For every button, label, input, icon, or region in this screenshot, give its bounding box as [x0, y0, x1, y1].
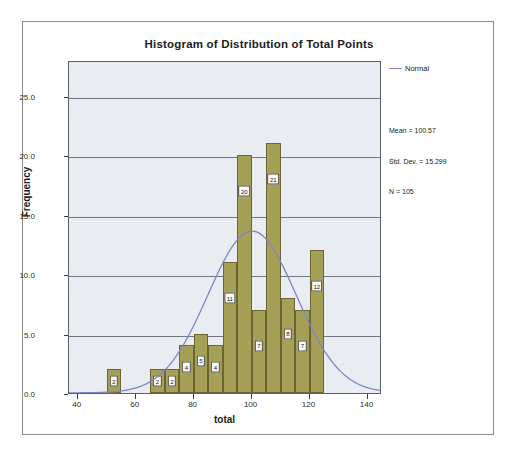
- chart-frame: Histogram of Distribution of Total Point…: [22, 21, 494, 435]
- x-axis-tick-mark: [77, 394, 78, 399]
- stat-mean: Mean = 100.57: [389, 126, 447, 136]
- y-axis-tick-mark: [64, 156, 68, 157]
- y-axis-tick-mark: [64, 335, 68, 336]
- stat-std-dev: Std. Dev. = 15.299: [389, 157, 447, 167]
- legend: Normal: [389, 64, 429, 73]
- legend-label-normal: Normal: [405, 64, 429, 73]
- y-axis-tick-mark: [64, 275, 68, 276]
- x-axis-tick-mark: [135, 394, 136, 399]
- statistics-annotation: Mean = 100.57 Std. Dev. = 15.299 N = 105: [389, 106, 447, 218]
- stat-n: N = 105: [389, 187, 447, 197]
- y-axis-tick-mark: [64, 97, 68, 98]
- y-axis-tick-label: 10.0: [19, 271, 35, 280]
- x-axis-tick-mark: [367, 394, 368, 399]
- y-axis-tick-label: 0.0: [24, 390, 35, 399]
- x-axis-tick-label: 40: [72, 400, 81, 409]
- plot-area: 22245411207218712: [68, 61, 381, 394]
- x-axis-tick-mark: [309, 394, 310, 399]
- x-axis-tick-label: 140: [360, 400, 373, 409]
- x-axis-tick-label: 120: [302, 400, 315, 409]
- x-axis-tick-mark: [251, 394, 252, 399]
- x-axis-label: total: [68, 414, 381, 425]
- legend-line-swatch: [389, 68, 402, 69]
- y-axis-tick-label: 5.0: [24, 330, 35, 339]
- y-axis-tick-mark: [64, 216, 68, 217]
- y-axis-tick-mark: [64, 394, 68, 395]
- x-axis-tick-label: 80: [188, 400, 197, 409]
- y-axis-label: Frequency: [21, 167, 32, 218]
- normal-curve: [69, 62, 380, 393]
- chart-title: Histogram of Distribution of Total Point…: [23, 38, 495, 50]
- y-axis-tick-label: 15.0: [19, 211, 35, 220]
- y-axis-tick-label: 25.0: [19, 92, 35, 101]
- x-axis-tick-mark: [193, 394, 194, 399]
- x-axis-tick-label: 100: [244, 400, 257, 409]
- x-axis-tick-label: 60: [130, 400, 139, 409]
- plot-inner: 22245411207218712: [69, 62, 380, 393]
- y-axis-tick-label: 20.0: [19, 152, 35, 161]
